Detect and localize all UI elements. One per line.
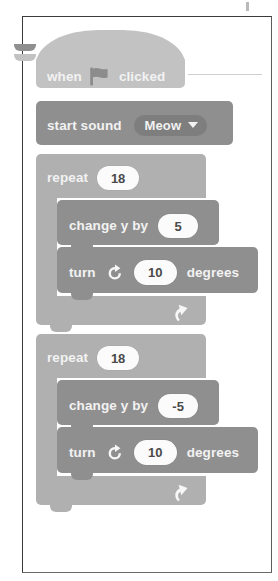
change-y-by-1-value[interactable]: 5 <box>158 214 198 238</box>
change-y-by-2-content: change y by -5 <box>69 394 198 418</box>
repeat-1-notch <box>50 325 72 332</box>
turn-2-degrees-input[interactable]: 10 <box>134 440 177 465</box>
turn-right-2-content: turn 10 degrees <box>69 440 239 465</box>
block-change-y-by-2[interactable]: change y by -5 <box>57 380 219 425</box>
block-repeat-2-header[interactable]: repeat 18 <box>36 334 206 378</box>
block-repeat-1-header[interactable]: repeat 18 <box>36 154 206 198</box>
turn-right-2-notch <box>71 473 93 480</box>
repeat-1-times-input[interactable]: 18 <box>97 166 139 190</box>
start-sound-label: start sound <box>47 119 122 133</box>
start-sound-notch <box>14 44 36 51</box>
hat-block-notch <box>14 54 36 61</box>
repeat-1-left-arm <box>36 198 57 303</box>
repeat-2-content: repeat 18 <box>47 346 139 370</box>
turn-1-degrees-input[interactable]: 10 <box>134 260 177 285</box>
turn-clockwise-icon <box>106 264 124 282</box>
scratch-script-canvas: when clicked start sound Meow repeat 18 <box>0 0 278 581</box>
repeat-2-notch <box>50 505 72 512</box>
repeat-2-label: repeat <box>47 351 88 365</box>
change-y-by-1-label: change y by <box>69 219 148 233</box>
turn-2-label: turn <box>69 446 96 460</box>
change-y-by-2-label: change y by <box>69 399 148 413</box>
repeat-2-left-arm <box>36 378 57 483</box>
block-start-sound[interactable]: start sound Meow <box>36 101 233 145</box>
block-when-flag-clicked[interactable]: when clicked <box>36 30 185 88</box>
turn-clockwise-icon <box>106 444 124 462</box>
chevron-down-icon <box>188 122 198 128</box>
repeat-1-content: repeat 18 <box>47 166 139 190</box>
repeat-1-label: repeat <box>47 171 88 185</box>
turn-right-1-notch <box>71 293 93 300</box>
block-turn-right-2[interactable]: turn 10 degrees <box>57 427 258 473</box>
turn-1-label: turn <box>69 266 96 280</box>
loop-arrow-icon <box>171 301 192 326</box>
green-flag-icon <box>89 67 112 86</box>
change-y-by-1-content: change y by 5 <box>69 214 198 238</box>
loop-arrow-icon <box>171 481 192 506</box>
when-label: when <box>47 70 82 84</box>
sound-dropdown-value: Meow <box>145 119 182 132</box>
change-y-by-2-value[interactable]: -5 <box>158 394 198 418</box>
start-sound-content: start sound Meow <box>47 115 207 136</box>
clicked-label: clicked <box>119 70 165 84</box>
turn-right-1-content: turn 10 degrees <box>69 260 239 285</box>
annotation-leader-line <box>188 74 262 75</box>
block-turn-right-1[interactable]: turn 10 degrees <box>57 247 258 293</box>
repeat-2-times-input[interactable]: 18 <box>97 346 139 370</box>
sound-dropdown[interactable]: Meow <box>134 115 208 136</box>
block-change-y-by-1[interactable]: change y by 5 <box>57 200 219 245</box>
degrees-2-label: degrees <box>187 446 239 460</box>
hat-block-content: when clicked <box>47 67 165 86</box>
degrees-1-label: degrees <box>187 266 239 280</box>
